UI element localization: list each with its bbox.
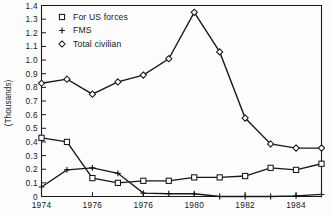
plus-marker-icon [242,194,248,200]
plus-marker-icon [268,194,274,200]
diamond-marker-icon [59,41,65,47]
square-marker-icon [115,180,120,185]
x-tick-label: 1980 [184,200,204,210]
y-tick-label: 0.7 [26,96,39,106]
square-marker-icon [39,135,44,140]
data-series [39,135,324,185]
chart-legend: For US forcesFMSTotal civilian [59,12,128,49]
diamond-marker-icon [293,145,299,151]
y-tick-label: 0.5 [26,123,39,133]
x-tick-label: 1976 [133,200,153,210]
square-marker-icon [141,178,146,183]
plus-marker-icon [166,191,172,197]
y-tick-label: 0.8 [26,82,39,92]
square-marker-icon [64,139,69,144]
square-marker-icon [90,175,95,180]
y-tick-label: 1.4 [26,1,39,11]
y-tick-label: 0.6 [26,110,39,120]
diamond-marker-icon [38,80,44,86]
y-axis: 00.10.20.30.40.50.60.70.80.91.01.11.21.3… [26,1,46,202]
diamond-marker-icon [115,79,121,85]
diamond-marker-icon [318,145,324,151]
diamond-marker-icon [64,76,70,82]
legend-item: Total civilian [59,39,122,49]
series-line-path [42,168,322,197]
y-tick-label: 1.3 [26,14,39,24]
y-tick-label: 0.4 [26,137,39,147]
square-marker-icon [243,173,248,178]
plus-marker-icon [191,191,197,197]
plus-marker-icon [90,165,96,171]
square-marker-icon [192,175,197,180]
y-axis-title: (Thousands) [3,79,13,126]
square-marker-icon [166,178,171,183]
square-marker-icon [319,161,324,166]
series-line-path [42,138,322,183]
square-marker-icon [59,14,64,19]
diamond-marker-icon [89,91,95,97]
square-marker-icon [268,165,273,170]
y-tick-label: 0.2 [26,164,39,174]
legend-item: For US forces [59,12,128,22]
chart-container: 00.10.20.30.40.50.60.70.80.91.01.11.21.3… [0,0,332,215]
y-tick-label: 0.1 [26,178,39,188]
y-tick-label: 0.3 [26,151,39,161]
line-chart: 00.10.20.30.40.50.60.70.80.91.01.11.21.3… [0,0,332,215]
plus-marker-icon [217,194,223,200]
y-tick-label: 1.2 [26,28,39,38]
data-series-group [38,9,324,199]
plus-marker-icon [59,28,65,34]
square-marker-icon [217,175,222,180]
plus-marker-icon [293,193,299,199]
x-tick-label: 1976 [83,200,103,210]
legend-item-label: For US forces [73,12,128,22]
x-tick-label: 1984 [286,200,306,210]
square-marker-icon [293,167,298,172]
x-tick-label: 1974 [32,200,52,210]
legend-item-label: Total civilian [73,39,121,49]
x-tick-label: 1982 [235,200,255,210]
y-tick-label: 1.1 [26,41,39,51]
y-tick-label: 1.0 [26,55,39,65]
data-series [39,165,325,199]
legend-item: FMS [59,25,92,35]
legend-item-label: FMS [73,25,92,35]
y-tick-label: 0.9 [26,69,39,79]
